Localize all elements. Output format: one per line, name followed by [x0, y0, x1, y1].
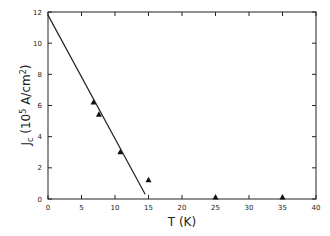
chart: 0510152025303540024681012 T (K) Jc (105 …	[0, 0, 330, 236]
x-tick-label: 10	[111, 204, 120, 212]
y-tick-label: 0	[38, 196, 42, 204]
x-tick-label: 20	[178, 204, 187, 212]
plot-axes	[48, 12, 316, 199]
y-tick-label: 4	[38, 133, 43, 141]
x-tick-label: 30	[245, 204, 254, 212]
y-axis-label: Jc (105 A/cm2)	[19, 65, 35, 147]
x-tick-label: 25	[211, 204, 220, 212]
x-tick-label: 40	[312, 204, 321, 212]
fit-line	[48, 15, 145, 194]
y-tick-label: 6	[38, 102, 43, 110]
data-point-triangle	[280, 194, 286, 200]
data-point-triangle	[146, 177, 152, 183]
y-tick-label: 10	[33, 40, 42, 48]
axis-ticks: 0510152025303540024681012	[33, 9, 320, 213]
plot-frame	[48, 12, 316, 199]
x-tick-label: 15	[144, 204, 153, 212]
x-tick-label: 5	[79, 204, 83, 212]
x-axis-label: T (K)	[167, 215, 196, 229]
y-tick-label: 12	[33, 9, 42, 17]
y-tick-label: 8	[38, 71, 42, 79]
data-series	[48, 15, 286, 199]
x-tick-label: 0	[46, 204, 50, 212]
x-tick-label: 35	[278, 204, 287, 212]
data-point-triangle	[213, 194, 219, 200]
y-tick-label: 2	[38, 164, 42, 172]
